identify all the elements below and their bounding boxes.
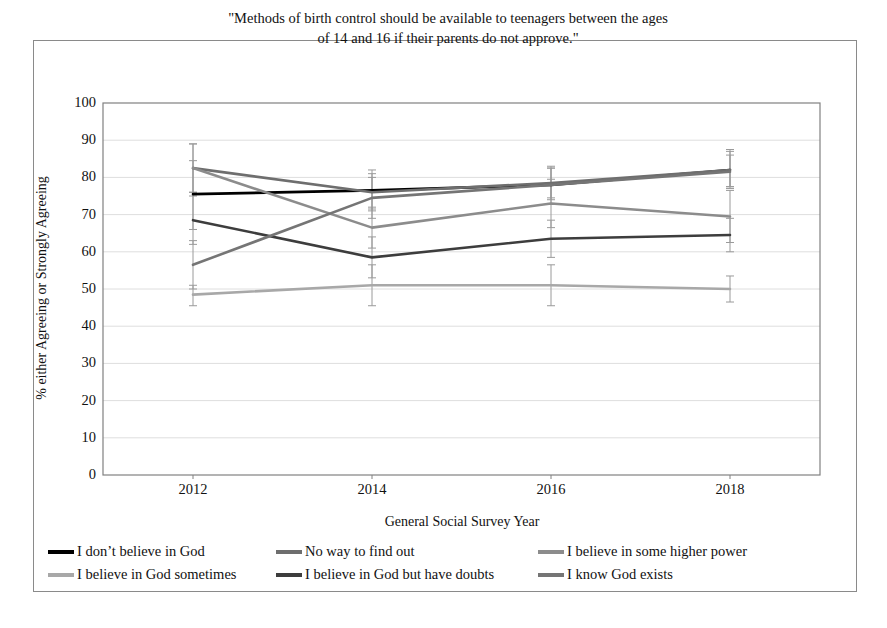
legend-color-swatch xyxy=(276,550,302,554)
legend-label: I don’t believe in God xyxy=(77,543,205,560)
y-axis-tick-labels: 0102030405060708090100 xyxy=(36,0,96,628)
x-tick-label: 2012 xyxy=(153,481,233,498)
y-tick-label: 90 xyxy=(36,131,96,148)
legend-item: I believe in God but have doubts xyxy=(276,566,538,583)
x-tick-label: 2014 xyxy=(332,481,412,498)
legend-color-swatch xyxy=(48,573,74,577)
y-tick-label: 70 xyxy=(36,206,96,223)
figure-outer-border xyxy=(33,40,857,592)
legend-item: I believe in God sometimes xyxy=(48,566,276,583)
x-tick-label: 2016 xyxy=(511,481,591,498)
chart-title-line-1: "Methods of birth control should be avai… xyxy=(228,10,668,26)
legend-row: I believe in God sometimesI believe in G… xyxy=(48,563,838,586)
x-tick-label: 2018 xyxy=(690,481,770,498)
y-tick-label: 40 xyxy=(36,317,96,334)
legend-item: I know God exists xyxy=(538,566,673,583)
y-tick-label: 20 xyxy=(36,392,96,409)
y-tick-label: 50 xyxy=(36,280,96,297)
y-tick-label: 0 xyxy=(36,466,96,483)
y-tick-label: 60 xyxy=(36,243,96,260)
y-tick-label: 10 xyxy=(36,429,96,446)
legend-color-swatch xyxy=(276,573,302,577)
y-tick-label: 80 xyxy=(36,168,96,185)
legend-label: I know God exists xyxy=(567,566,673,583)
legend-item: I don’t believe in God xyxy=(48,543,276,560)
chart-legend: I don’t believe in GodNo way to find out… xyxy=(48,540,838,586)
legend-label: I believe in God sometimes xyxy=(77,566,236,583)
legend-label: I believe in some higher power xyxy=(567,543,747,560)
legend-color-swatch xyxy=(48,550,74,554)
legend-color-swatch xyxy=(538,550,564,554)
legend-label: No way to find out xyxy=(305,543,415,560)
chart-title-line-2: of 14 and 16 if their parents do not app… xyxy=(103,28,793,48)
legend-item: I believe in some higher power xyxy=(538,543,747,560)
legend-color-swatch xyxy=(538,573,564,577)
y-tick-label: 30 xyxy=(36,354,96,371)
legend-row: I don’t believe in GodNo way to find out… xyxy=(48,540,838,563)
legend-label: I believe in God but have doubts xyxy=(305,566,494,583)
chart-title: "Methods of birth control should be avai… xyxy=(103,8,793,48)
y-tick-label: 100 xyxy=(36,94,96,111)
legend-item: No way to find out xyxy=(276,543,538,560)
